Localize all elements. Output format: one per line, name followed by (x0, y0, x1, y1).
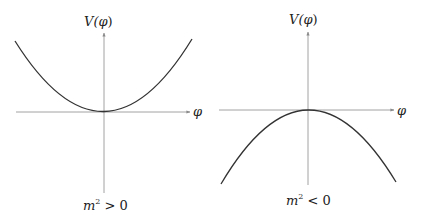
left-caption: m2 > 0 (83, 197, 128, 213)
left-y-label: V(φ) (84, 14, 113, 29)
potential-diagrams: V(φ) φ m2 > 0 V(φ) φ m2 < 0 (0, 0, 422, 221)
right-caption: m2 < 0 (286, 192, 331, 208)
right-plot-m2-negative: V(φ) φ m2 < 0 (219, 12, 407, 208)
right-y-label: V(φ) (289, 12, 318, 27)
left-x-label: φ (193, 104, 203, 119)
right-x-label: φ (397, 103, 407, 118)
left-potential-curve (15, 39, 192, 112)
left-plot-m2-positive: V(φ) φ m2 > 0 (15, 14, 203, 213)
right-potential-curve (221, 110, 396, 184)
